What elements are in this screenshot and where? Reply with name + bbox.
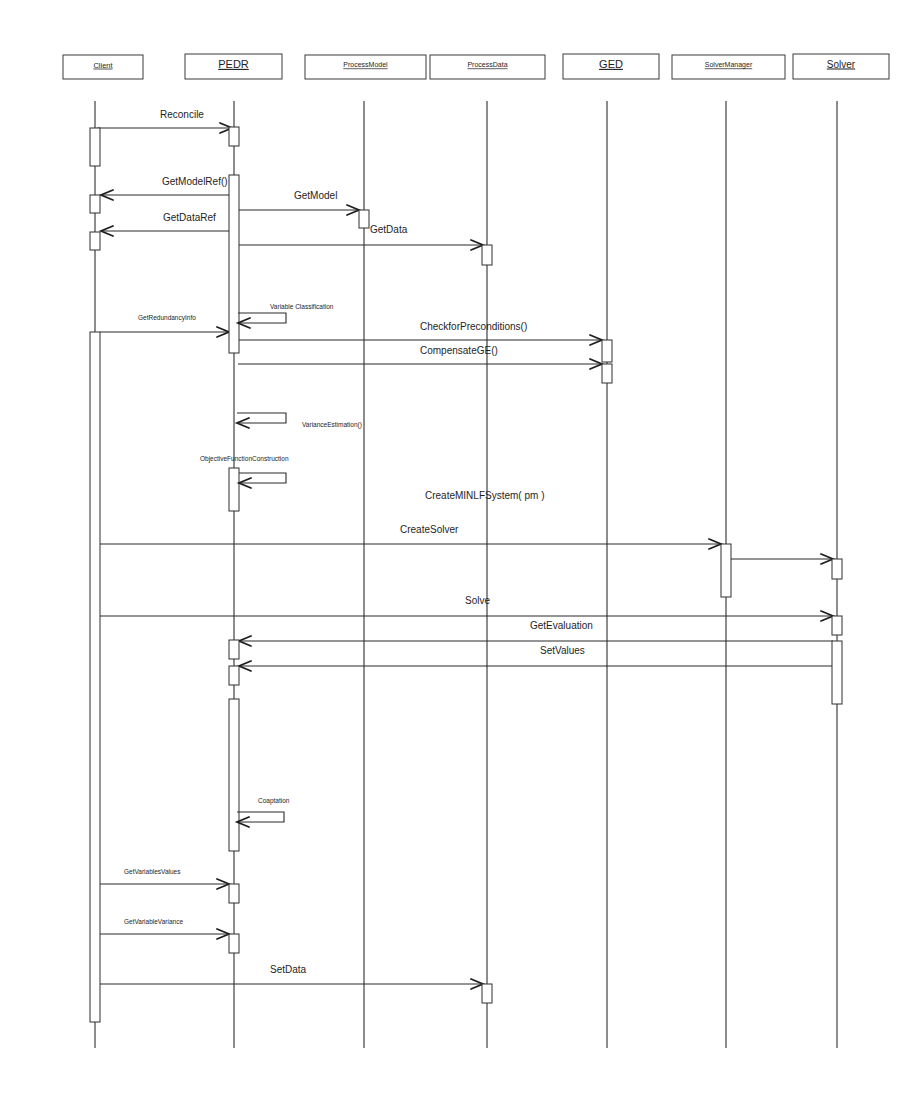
activation-bar-ged <box>602 340 612 362</box>
participant-name: PEDR <box>218 58 249 70</box>
message-label: GetDataRef <box>163 212 216 223</box>
message-label: GetEvaluation <box>530 620 593 631</box>
activation-bar-client <box>90 128 100 166</box>
participant-name: Client <box>93 61 113 70</box>
self-message-variableclassification <box>238 313 286 328</box>
self-message-objectivefunctionconstruction <box>239 473 286 488</box>
activation-bar-pedr <box>229 640 239 659</box>
activation-bar-pedr <box>229 884 239 903</box>
self-message-label: ObjectiveFunctionConstruction <box>200 455 289 463</box>
participant-name: ProcessData <box>467 61 507 68</box>
self-message-line <box>238 313 286 323</box>
participant-name: ProcessModel <box>343 61 388 68</box>
message-label: Solve <box>465 595 490 606</box>
message-compensatege <box>238 359 602 369</box>
message-label: CompensateGE() <box>420 345 498 356</box>
activation-bar-pedr <box>229 666 239 685</box>
message-reconcile <box>97 123 232 133</box>
activation-bar-pedr <box>229 468 239 511</box>
activation-bar-solvermanager <box>721 544 731 597</box>
participant-boxes: ClientPEDRProcessModelProcessDataGEDSolv… <box>63 54 889 79</box>
message-solver-create <box>731 554 833 564</box>
message-label: CheckforPreconditions() <box>420 321 527 332</box>
message-label: Reconcile <box>160 109 204 120</box>
self-message-line <box>237 812 284 822</box>
message-setdata <box>100 979 483 989</box>
self-messages <box>237 313 286 827</box>
participant-solver: Solver <box>793 54 889 79</box>
message-getevaluation <box>239 636 833 646</box>
message-getredundancyinfo <box>100 327 229 337</box>
note-label: CreateMINLFSystem( pm ) <box>425 490 544 501</box>
self-message-coaptation <box>237 812 284 827</box>
self-message-line <box>237 413 286 423</box>
activation-bar-pedr <box>229 699 239 851</box>
message-getmodelref <box>101 190 230 200</box>
message-getvariablevariance <box>100 929 229 939</box>
participant-name: GED <box>599 58 623 70</box>
message-label: GetRedundancyInfo <box>138 314 196 322</box>
activation-bars <box>90 127 842 1022</box>
self-message-label: Coaptation <box>258 797 290 805</box>
message-getdataref <box>101 226 230 236</box>
message-label: GetModelRef() <box>162 176 228 187</box>
sequence-diagram: ClientPEDRProcessModelProcessDataGEDSolv… <box>0 0 924 1095</box>
activation-bar-solver <box>832 559 842 579</box>
activation-bar-pedr <box>229 175 239 353</box>
message-getmodel <box>238 205 359 215</box>
message-label: GetData <box>370 224 408 235</box>
activation-bar-solver <box>832 616 842 635</box>
activation-bar-ged <box>602 364 612 383</box>
activation-bar-client <box>90 332 100 1022</box>
message-checkforpreconditions <box>238 335 602 345</box>
activation-bar-pedr <box>229 934 239 953</box>
activation-bar-client <box>90 195 100 213</box>
message-label: SetValues <box>540 645 585 656</box>
self-message-label: Variable Classification <box>270 303 334 310</box>
participant-name: Solver <box>827 59 856 70</box>
activation-bar-client <box>90 232 100 250</box>
self-message-line <box>239 473 286 483</box>
participant-solvermanager: SolverManager <box>672 55 785 79</box>
message-label: GetVariablesValues <box>124 868 181 875</box>
self-message-label: VarianceEstimation() <box>302 421 362 429</box>
message-label: GetVariableVariance <box>124 918 183 925</box>
activation-bar-processdata <box>482 984 492 1003</box>
message-solve <box>100 611 833 621</box>
message-getdata <box>238 240 483 250</box>
message-setvalues <box>239 661 833 671</box>
participant-pedr: PEDR <box>185 54 282 79</box>
message-label: CreateSolver <box>400 524 459 535</box>
message-createsolver <box>100 539 721 549</box>
participant-processmodel: ProcessModel <box>305 55 426 79</box>
activation-bar-pedr <box>229 127 239 146</box>
activation-bar-solver <box>832 641 842 704</box>
participant-ged: GED <box>563 54 659 79</box>
self-message-varianceestimation <box>237 413 286 428</box>
activation-bar-processdata <box>482 245 492 265</box>
message-label: GetModel <box>294 190 337 201</box>
activation-bar-processmodel <box>359 210 369 228</box>
participant-name: SolverManager <box>705 61 753 69</box>
participant-processdata: ProcessData <box>430 55 545 79</box>
message-getvariablesvalues <box>100 879 229 889</box>
message-labels: ReconcileGetModelRef()GetModelGetDataRef… <box>124 109 593 975</box>
participant-client: Client <box>63 55 143 79</box>
message-label: SetData <box>270 964 307 975</box>
